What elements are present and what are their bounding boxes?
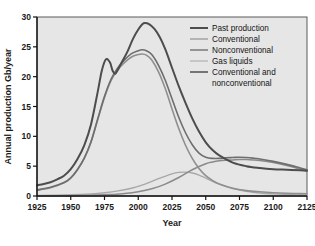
y-tick-label: 0 (26, 191, 31, 201)
x-tick-label: 2000 (129, 202, 148, 212)
x-tick-label: 2050 (196, 202, 215, 212)
legend-label: Gas liquids (212, 57, 253, 66)
x-tick-label: 2025 (163, 202, 182, 212)
x-tick-label: 2100 (264, 202, 283, 212)
y-tick-label: 5 (26, 161, 31, 171)
legend-label: Conventional (212, 35, 260, 44)
legend-label: Conventional and (212, 68, 276, 77)
y-tick-label: 10 (22, 131, 32, 141)
x-tick-label: 1950 (61, 202, 80, 212)
y-tick-label: 15 (22, 102, 32, 112)
y-tick-label: 25 (22, 42, 32, 52)
x-tick-label: 2075 (230, 202, 249, 212)
y-axis-label: Annual production Gb/year (3, 48, 13, 165)
y-tick-label: 30 (22, 12, 32, 22)
legend-label-cont: nonconventional (212, 79, 272, 88)
legend-label: Past production (212, 24, 269, 33)
x-tick-label: 1975 (95, 202, 114, 212)
x-tick-label: 2125 (298, 202, 315, 212)
y-tick-label: 20 (22, 72, 32, 82)
legend-label: Nonconventional (212, 46, 273, 55)
x-axis-label: Year (162, 218, 182, 228)
production-chart: 0510152025301925195019752000202520502075… (0, 0, 315, 246)
x-tick-label: 1925 (28, 202, 47, 212)
